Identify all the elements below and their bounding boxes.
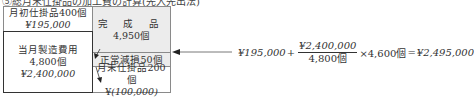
arrow-to-ending-wip-icon — [96, 67, 102, 83]
arrow-to-normal-loss-icon — [94, 49, 100, 59]
arrow-to-completed-icon — [172, 49, 232, 55]
